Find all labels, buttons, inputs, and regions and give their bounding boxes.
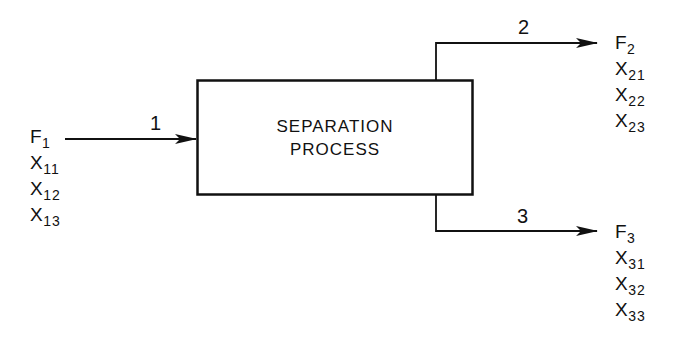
stream-2-composition-3: X23 (615, 109, 646, 135)
stream-2-variables: F2 X21 X22 X23 (615, 31, 646, 135)
stream-2-arrow (436, 43, 597, 80)
stream-3-composition-3: X33 (615, 298, 646, 324)
stream-3-composition-2: X32 (615, 272, 646, 298)
stream-1-number: 1 (150, 112, 161, 135)
stream-3-number: 3 (517, 205, 528, 228)
stream-2-composition-1: X21 (615, 57, 646, 83)
stream-2-composition-2: X22 (615, 83, 646, 109)
process-label-line2: PROCESS (290, 138, 380, 161)
stream-1-composition-3: X13 (30, 203, 61, 229)
stream-3-composition-1: X31 (615, 246, 646, 272)
stream-1-flow: F1 (30, 125, 61, 151)
stream-2-number: 2 (518, 16, 529, 39)
stream-1-composition-2: X12 (30, 177, 61, 203)
process-label-line1: SEPARATION (276, 115, 393, 138)
stream-3-flow: F3 (615, 220, 646, 246)
stream-2-flow: F2 (615, 31, 646, 57)
stream-1-composition-1: X11 (30, 151, 61, 177)
stream-3-variables: F3 X31 X32 X33 (615, 220, 646, 324)
process-label: SEPARATION PROCESS (197, 80, 473, 195)
stream-1-variables: F1 X11 X12 X13 (30, 125, 61, 229)
